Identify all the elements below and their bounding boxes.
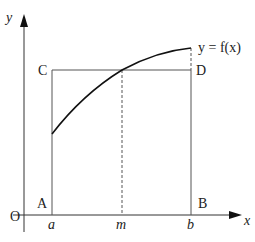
tick-label-a: a (48, 217, 55, 232)
x-axis-label: x (243, 213, 251, 228)
y-axis-arrow-icon (20, 14, 28, 27)
diagram-canvas: y x O C D A B a m b y = f(x) (0, 0, 255, 242)
tick-label-m: m (116, 217, 126, 232)
mean-value-diagram: y x O C D A B a m b y = f(x) (0, 0, 255, 242)
y-axis-label: y (4, 10, 13, 25)
x-axis-arrow-icon (229, 211, 242, 219)
point-label-a: A (37, 196, 48, 211)
point-label-d: D (196, 63, 206, 78)
tick-label-b: b (187, 217, 194, 232)
point-label-b: B (198, 196, 207, 211)
point-label-c: C (38, 63, 47, 78)
origin-label: O (10, 209, 20, 224)
curve-label: y = f(x) (198, 40, 241, 56)
